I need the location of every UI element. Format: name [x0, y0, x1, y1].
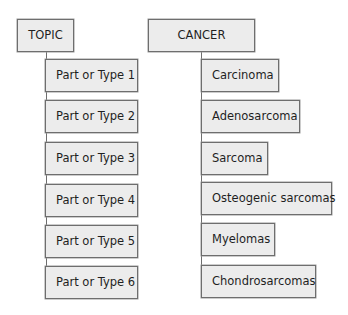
topic-child-box-5: Part or Type 5 — [45, 225, 138, 258]
topic-child-box-2: Part or Type 2 — [45, 100, 138, 133]
topic-child-label: Part or Type 2 — [56, 111, 135, 123]
topic-child-label: Part or Type 6 — [56, 277, 135, 289]
cancer-child-box-sarcoma: Sarcoma — [201, 142, 268, 175]
topic-child-label: Part or Type 1 — [56, 70, 135, 82]
cancer-child-box-osteogenic-sarcomas: Osteogenic sarcomas — [201, 182, 332, 215]
topic-child-box-6: Part or Type 6 — [45, 266, 138, 299]
topic-root-label: TOPIC — [28, 30, 62, 42]
topic-child-box-1: Part or Type 1 — [45, 59, 138, 92]
topic-child-box-3: Part or Type 3 — [45, 142, 138, 175]
cancer-child-label: Carcinoma — [212, 70, 274, 82]
cancer-child-label: Myelomas — [212, 234, 270, 246]
cancer-child-label: Adenosarcoma — [212, 111, 298, 123]
cancer-child-label: Sarcoma — [212, 153, 262, 165]
cancer-child-box-myelomas: Myelomas — [201, 223, 275, 256]
cancer-child-box-carcinoma: Carcinoma — [201, 59, 279, 92]
topic-child-label: Part or Type 5 — [56, 236, 135, 248]
topic-root-box: TOPIC — [17, 19, 74, 52]
cancer-child-label: Chondrosarcomas — [212, 276, 316, 288]
cancer-child-label: Osteogenic sarcomas — [212, 193, 336, 205]
topic-child-label: Part or Type 4 — [56, 195, 135, 207]
topic-child-label: Part or Type 3 — [56, 153, 135, 165]
cancer-root-label: CANCER — [178, 30, 226, 42]
cancer-child-box-chondrosarcomas: Chondrosarcomas — [201, 265, 316, 298]
cancer-root-box: CANCER — [148, 19, 255, 52]
cancer-child-box-adenosarcoma: Adenosarcoma — [201, 100, 300, 133]
topic-child-box-4: Part or Type 4 — [45, 184, 138, 217]
